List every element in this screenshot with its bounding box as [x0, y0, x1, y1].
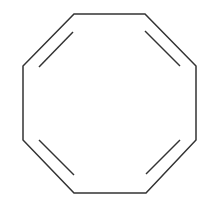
double-bond-line	[39, 140, 74, 175]
double-bond-lines	[39, 31, 180, 175]
double-bond-line	[39, 32, 73, 67]
cyclooctatetraene-structure	[0, 0, 200, 209]
double-bond-line	[145, 31, 180, 66]
octagon-ring	[23, 14, 196, 193]
double-bond-line	[146, 140, 180, 174]
